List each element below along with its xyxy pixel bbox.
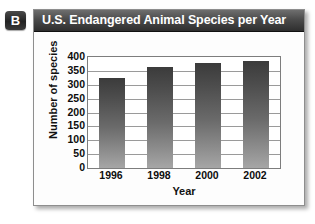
x-axis-tick-labels: 1996199820002002 [87, 170, 281, 184]
y-axis-tick: 350 [53, 65, 85, 76]
y-axis-tick: 400 [53, 51, 85, 62]
y-axis-tick: 250 [53, 92, 85, 103]
panel-letter-badge: B [5, 11, 26, 30]
y-axis-tick: 150 [53, 120, 85, 131]
chart-body: Number of species 4003503002502001501005… [34, 32, 306, 206]
x-axis-tick: 2002 [233, 170, 277, 181]
x-axis-tick: 1998 [137, 170, 181, 181]
figure-panel: B U.S. Endangered Animal Species per Yea… [0, 0, 315, 224]
y-axis-tick: 0 [53, 162, 85, 173]
chart-title-bar: U.S. Endangered Animal Species per Year [34, 10, 304, 32]
bar [99, 78, 125, 168]
y-axis-tick: 200 [53, 106, 85, 117]
plot-area [87, 56, 281, 169]
chart-title: U.S. Endangered Animal Species per Year [42, 13, 286, 27]
bar [243, 61, 269, 168]
chart-card: U.S. Endangered Animal Species per Year … [33, 9, 305, 206]
x-axis-tick: 1996 [89, 170, 133, 181]
y-axis-tick: 300 [53, 79, 85, 90]
x-axis-tick: 2000 [185, 170, 229, 181]
x-axis-label: Year [87, 185, 281, 197]
bar [147, 67, 173, 168]
bar [195, 63, 221, 168]
y-axis-tick: 100 [53, 134, 85, 145]
y-axis-tick: 50 [53, 148, 85, 159]
y-axis-tick-labels: 400350300250200150100500 [53, 56, 85, 167]
